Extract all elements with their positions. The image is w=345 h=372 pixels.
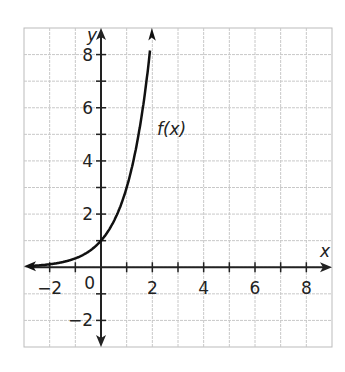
x-tick-label: 4 — [198, 278, 209, 298]
y-tick-label: −2 — [68, 310, 93, 330]
function-graph: −22468−224680xyf(x) — [0, 0, 345, 372]
x-tick-label: 2 — [147, 278, 158, 298]
y-tick-label: 6 — [82, 98, 93, 118]
y-tick-label: 8 — [82, 45, 93, 65]
y-tick-label: 2 — [82, 204, 93, 224]
x-tick-label: 6 — [250, 278, 261, 298]
y-tick-label: 4 — [82, 151, 93, 171]
x-axis-label: x — [319, 241, 331, 261]
x-tick-label: −2 — [37, 278, 62, 298]
curve-label: f(x) — [157, 119, 186, 139]
origin-label: 0 — [84, 273, 95, 293]
x-tick-label: 8 — [301, 278, 312, 298]
y-axis-label: y — [86, 25, 98, 45]
